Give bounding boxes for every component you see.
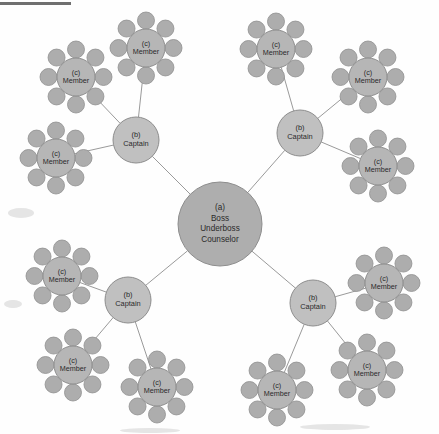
satellite-dot — [360, 41, 377, 58]
satellite-dot — [359, 334, 376, 351]
boss-node-label-line: (a) — [215, 203, 225, 212]
member-bl-2-label-line: Member — [60, 364, 87, 373]
satellite-dot — [241, 382, 258, 399]
satellite-dot — [387, 69, 404, 86]
scan-artifact — [120, 428, 180, 433]
satellite-dot — [403, 275, 420, 292]
satellite-dot — [48, 177, 65, 194]
satellite-dot — [376, 247, 393, 264]
satellite-dot — [149, 351, 166, 368]
satellite-dot — [40, 69, 57, 86]
captain-top-right-label-line: (b) — [295, 123, 304, 132]
captain-top-left-label-line: (b) — [131, 130, 140, 139]
satellite-dot — [48, 122, 65, 139]
satellite-dot — [149, 406, 166, 423]
captain-bottom-right-label-line: (b) — [308, 293, 317, 302]
scan-artifact — [8, 208, 34, 218]
member-tr-3-label-line: Member — [365, 165, 392, 174]
diagram-canvas: (c)Member(c)Member(c)Member(c)Member(c)M… — [0, 0, 439, 434]
member-tr-1-label-line: Member — [263, 48, 290, 57]
member-tr-3[interactable]: (c)Member — [359, 147, 397, 185]
member-br-2[interactable]: (c)Member — [348, 351, 386, 389]
satellite-dot — [386, 362, 403, 379]
satellite-dot — [20, 150, 37, 167]
member-bl-3-label-line: Member — [144, 386, 171, 395]
organization-network-graph: (c)Member(c)Member(c)Member(c)Member(c)M… — [0, 0, 439, 434]
satellite-dot — [75, 150, 92, 167]
satellite-dot — [138, 67, 155, 84]
captain-top-left[interactable]: (b)Captain — [113, 117, 159, 163]
satellite-dot — [54, 240, 71, 257]
member-tl-1-label-line: Member — [63, 76, 90, 85]
satellite-dot — [332, 69, 349, 86]
captain-bottom-right-label-line: Captain — [300, 302, 325, 311]
satellite-dot — [95, 69, 112, 86]
satellite-dot — [370, 185, 387, 202]
satellite-dot — [268, 13, 285, 30]
boss-node-label-line: Boss — [211, 214, 229, 223]
member-tl-2-label-line: Member — [133, 47, 160, 56]
scan-artifact — [300, 424, 370, 430]
satellite-dot — [81, 268, 98, 285]
edge-boss-node-to-captain-top-left — [152, 156, 190, 194]
captain-top-right[interactable]: (b)Captain — [277, 110, 323, 156]
satellite-dot — [269, 409, 286, 426]
scan-artifact — [4, 300, 22, 308]
member-tr-1[interactable]: (c)Member — [257, 30, 295, 68]
captain-bottom-left-label-line: (b) — [123, 290, 132, 299]
member-tl-3[interactable]: (c)Member — [37, 139, 75, 177]
member-tl-3-label-line: Member — [43, 157, 70, 166]
satellite-dot — [37, 357, 54, 374]
captain-bottom-right[interactable]: (b)Captain — [290, 280, 336, 326]
satellite-dot — [54, 295, 71, 312]
satellite-dot — [121, 379, 138, 396]
edge-boss-node-to-captain-bottom-right — [252, 251, 295, 288]
member-tr-2[interactable]: (c)Member — [349, 58, 387, 96]
satellite-dot — [342, 158, 359, 175]
member-bl-1-label-line: Member — [49, 275, 76, 284]
member-tr-2-label-line: Member — [355, 76, 382, 85]
top-rule-layer — [0, 2, 71, 5]
satellite-dot — [331, 362, 348, 379]
captain-top-left-label-line: Captain — [123, 139, 148, 148]
edge-boss-node-to-captain-bottom-left — [146, 251, 188, 286]
member-tl-1[interactable]: (c)Member — [57, 58, 95, 96]
member-br-2-label-line: Member — [354, 369, 381, 378]
satellite-dot — [68, 96, 85, 113]
satellite-dot — [165, 40, 182, 57]
boss-node[interactable]: (a)BossUnderbossCounselor — [178, 182, 262, 266]
top-rule — [0, 2, 71, 5]
satellite-dot — [269, 354, 286, 371]
member-bl-2[interactable]: (c)Member — [54, 346, 92, 384]
member-tl-2[interactable]: (c)Member — [127, 29, 165, 67]
captain-top-right-label-line: Captain — [287, 132, 312, 141]
satellite-dot — [92, 357, 109, 374]
satellite-dot — [370, 130, 387, 147]
member-br-1[interactable]: (c)Member — [365, 264, 403, 302]
member-br-1-label-line: Member — [371, 282, 398, 291]
member-bl-3[interactable]: (c)Member — [138, 368, 176, 406]
satellite-dot — [68, 41, 85, 58]
satellite-dot — [26, 268, 43, 285]
satellite-dot — [295, 41, 312, 58]
member-bl-1[interactable]: (c)Member — [43, 257, 81, 295]
edge-boss-node-to-captain-top-right — [248, 150, 285, 192]
satellite-dot — [348, 275, 365, 292]
member-br-3-label-line: Member — [264, 389, 291, 398]
satellite-dot — [376, 302, 393, 319]
satellite-dot — [296, 382, 313, 399]
captain-bottom-left[interactable]: (b)Captain — [105, 277, 151, 323]
satellite-dot — [240, 41, 257, 58]
satellite-dot — [397, 158, 414, 175]
boss-node-label-line: Underboss — [200, 224, 240, 233]
boss-node-label-line: Counselor — [201, 235, 239, 244]
satellite-dot — [65, 384, 82, 401]
satellite-dot — [359, 389, 376, 406]
captain-bottom-left-label-line: Captain — [115, 299, 140, 308]
member-br-3[interactable]: (c)Member — [258, 371, 296, 409]
satellite-dot — [268, 68, 285, 85]
satellite-dot — [110, 40, 127, 57]
satellite-dot — [360, 96, 377, 113]
satellite-dot — [176, 379, 193, 396]
satellite-dot — [138, 12, 155, 29]
